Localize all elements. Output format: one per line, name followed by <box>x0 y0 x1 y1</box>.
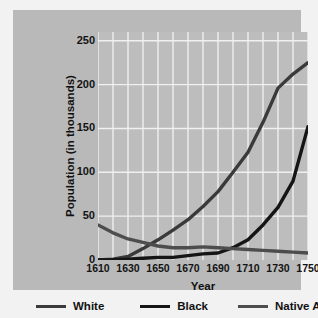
legend-label: Native American <box>275 300 318 312</box>
legend-swatch-icon <box>140 305 170 308</box>
chart-panel: Population (in thousands) 05010015020025… <box>13 10 301 290</box>
y-tick-label: 100 <box>57 166 95 177</box>
x-tick-label: 1670 <box>171 263 205 274</box>
legend-label: Black <box>177 300 208 312</box>
x-axis-ticks: 16101630165016701690171017301750 <box>98 263 314 279</box>
gridlines <box>98 32 308 260</box>
legend-swatch-icon <box>36 305 66 308</box>
y-tick-label: 250 <box>57 35 95 46</box>
x-tick-label: 1710 <box>231 263 265 274</box>
y-tick-label: 200 <box>57 79 95 90</box>
legend-item-white: White <box>36 300 104 312</box>
x-tick-label: 1730 <box>261 263 295 274</box>
x-tick-label: 1690 <box>201 263 235 274</box>
plot-area <box>98 32 308 260</box>
legend-swatch-icon <box>238 305 268 308</box>
x-tick-label: 1750 <box>291 263 318 274</box>
x-tick-label: 1630 <box>111 263 145 274</box>
chart-figure: Population (in thousands) 05010015020025… <box>0 0 318 318</box>
y-tick-label: 50 <box>57 210 95 221</box>
legend-item-native-american: Native American <box>238 300 318 312</box>
x-tick-label: 1650 <box>141 263 175 274</box>
legend-label: White <box>73 300 104 312</box>
y-axis-ticks: 050100150200250 <box>53 32 95 260</box>
legend-item-black: Black <box>140 300 208 312</box>
x-tick-label: 1610 <box>81 263 115 274</box>
x-axis-title: Year <box>98 280 308 292</box>
y-tick-label: 150 <box>57 122 95 133</box>
chart-legend: White Black Native American <box>0 296 318 316</box>
plot-svg <box>98 32 308 260</box>
